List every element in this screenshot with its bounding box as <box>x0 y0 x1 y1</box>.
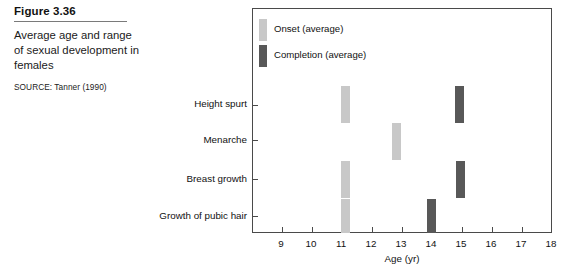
figure-page: Figure 3.36 Average age and range of sex… <box>0 0 574 272</box>
x-label-9: 9 <box>271 238 291 249</box>
legend-label-completion: Completion (average) <box>274 49 366 60</box>
x-axis-title: Age (yr) <box>252 253 552 264</box>
x-label-18: 18 <box>541 238 561 249</box>
y-tick-breast-growth <box>253 179 258 180</box>
x-tick-16 <box>492 227 493 232</box>
x-label-17: 17 <box>511 238 531 249</box>
bar-pubic-hair-onset <box>341 199 350 233</box>
y-label-pubic-hair: Growth of pubic hair <box>159 210 247 221</box>
y-axis-labels: Height spurt Menarche Breast growth Grow… <box>110 8 247 233</box>
x-label-11: 11 <box>331 238 351 249</box>
x-tick-13 <box>402 227 403 232</box>
y-tick-pubic-hair <box>253 216 258 217</box>
legend-swatch-completion <box>259 45 267 67</box>
y-label-menarche: Menarche <box>203 134 247 145</box>
bar-breast-growth-completion <box>456 161 465 198</box>
x-tick-9 <box>282 227 283 232</box>
x-label-15: 15 <box>451 238 471 249</box>
x-tick-17 <box>522 227 523 232</box>
legend-label-onset: Onset (average) <box>274 23 343 34</box>
y-tick-height-spurt <box>253 105 258 106</box>
y-label-breast-growth: Breast growth <box>187 173 247 184</box>
x-label-10: 10 <box>301 238 321 249</box>
chart-plot-area: Onset (average) Completion (average) <box>252 8 552 233</box>
x-tick-12 <box>372 227 373 232</box>
bar-breast-growth-onset <box>341 161 350 198</box>
x-label-13: 13 <box>391 238 411 249</box>
bar-height-spurt-onset <box>341 86 350 123</box>
bar-height-spurt-completion <box>455 86 464 123</box>
y-tick-menarche <box>253 140 258 141</box>
chart-legend: Onset (average) Completion (average) <box>257 15 379 65</box>
legend-swatch-onset <box>259 19 267 41</box>
x-label-12: 12 <box>361 238 381 249</box>
y-label-height-spurt: Height spurt <box>194 98 247 109</box>
x-tick-10 <box>312 227 313 232</box>
bar-pubic-hair-completion <box>427 199 436 233</box>
x-label-16: 16 <box>481 238 501 249</box>
x-label-14: 14 <box>421 238 441 249</box>
bar-menarche-onset <box>392 123 401 160</box>
x-tick-15 <box>462 227 463 232</box>
x-axis-labels: 9 10 11 12 13 14 15 16 17 18 <box>252 238 562 252</box>
